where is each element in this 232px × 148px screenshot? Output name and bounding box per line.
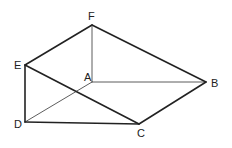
prism-diagram: A B C D E F (0, 0, 232, 148)
edge-cb (139, 82, 206, 124)
vertex-label-a: A (84, 71, 92, 83)
edge-dc (25, 122, 139, 124)
edge-fe (25, 25, 92, 65)
vertex-label-b: B (211, 77, 218, 89)
vertex-label-e: E (14, 59, 21, 71)
vertex-label-d: D (14, 118, 22, 130)
vertex-label-c: C (137, 127, 145, 139)
edge-ec (25, 65, 139, 124)
vertex-label-f: F (88, 10, 95, 22)
edge-fb (92, 25, 206, 82)
edge-ad (25, 82, 92, 122)
edges-group (25, 25, 206, 124)
